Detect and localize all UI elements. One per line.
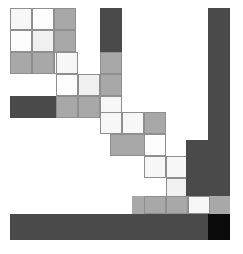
low-shelf-cell-c (188, 196, 210, 214)
top-left-cell-r0c2 (54, 8, 76, 30)
top-left-cell-r2c0 (10, 52, 32, 74)
step-cell-b2 (56, 74, 78, 96)
step-cell-b1 (56, 52, 78, 74)
top-left-cell-r0c0 (10, 8, 32, 30)
shelf-row-upper-b (78, 96, 100, 118)
shelf-row-upper-a (56, 96, 78, 118)
mid-step-c2 (122, 112, 144, 134)
mid-step-c4 (144, 112, 166, 134)
top-left-cell-r1c2 (54, 30, 76, 52)
top-left-cell-r1c1 (32, 30, 54, 52)
right-bar-upper (208, 8, 230, 140)
diagram-canvas (0, 0, 243, 254)
upper-right-stub (100, 52, 122, 74)
step-cell-b3 (78, 74, 100, 96)
mid-highlight (144, 134, 166, 156)
low-step-d2 (166, 156, 188, 178)
low-shelf-cell-b (166, 196, 188, 214)
mid-step-c1 (100, 112, 122, 134)
bottom-bar-main (10, 214, 230, 240)
upper-right-stub2 (100, 74, 122, 96)
top-left-cell-r0c1 (32, 8, 54, 30)
low-step-d1 (144, 156, 166, 178)
low-shelf-cell-a (144, 196, 166, 214)
top-left-cell-r2c1 (32, 52, 54, 74)
top-left-cell-r1c0 (10, 30, 32, 52)
bottom-right-black (208, 214, 230, 240)
